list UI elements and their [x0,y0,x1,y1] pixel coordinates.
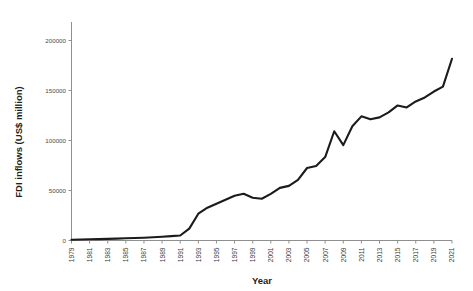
x-axis-tick-labels: 1979198119831985198719891991199319951997… [68,247,456,262]
x-tick-label: 1983 [104,247,111,262]
x-tick-label: 2007 [322,247,329,262]
y-tick-label: 200000 [45,37,66,44]
x-tick-label: 2001 [267,247,274,262]
x-tick-label: 1979 [68,247,75,262]
y-axis-tick-labels: 0 50000 100000 150000 200000 [45,37,66,244]
x-tick-label: 2015 [394,247,401,262]
x-tick-label: 2017 [412,247,419,262]
y-tick-label: 150000 [45,87,66,94]
x-tick-label: 1981 [86,247,93,262]
y-axis-title: FDI inflows (US$ million) [13,86,24,197]
x-tick-label: 2003 [285,247,292,262]
x-tick-label: 1989 [159,247,166,262]
x-tick-label: 2011 [358,247,365,262]
x-tick-label: 1991 [177,247,184,262]
y-tick-label: 100000 [45,137,66,144]
x-tick-label: 1999 [249,247,256,262]
x-tick-label: 1993 [195,247,202,262]
x-tick-label: 1995 [213,247,220,262]
fdi-inflows-line-chart: FDI inflows (US$ million) 0 50000 100000… [0,0,473,291]
y-tick-label: 0 [63,237,67,244]
x-tick-label: 1997 [231,247,238,262]
x-tick-label: 1985 [122,247,129,262]
x-tick-label: 2021 [448,247,455,262]
x-tick-label: 2019 [430,247,437,262]
x-axis-title: Year [252,275,272,286]
x-tick-label: 1987 [140,247,147,262]
x-tick-label: 2013 [376,247,383,262]
y-tick-label: 50000 [49,187,67,194]
fdi-series-line [72,59,453,240]
x-tick-label: 2005 [303,247,310,262]
chart-figure: FDI inflows (US$ million) 0 50000 100000… [0,0,473,291]
x-tick-label: 2009 [340,247,347,262]
